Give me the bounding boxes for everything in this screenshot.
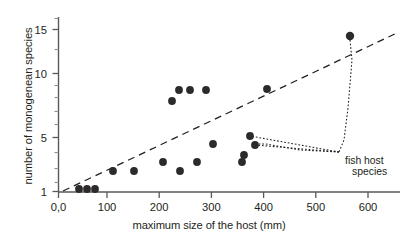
data-point — [109, 167, 117, 175]
fish-host-species-annotation: fish host species — [345, 155, 387, 177]
x-tick-label-200: 200 — [150, 201, 169, 213]
plot-canvas: 15 10 5 1 0,0 100 200 300 400 500 600 — [0, 0, 418, 244]
data-point — [130, 167, 138, 175]
data-point — [175, 86, 183, 94]
leader-line-cluster-c — [256, 144, 339, 152]
data-point — [193, 158, 201, 166]
leader-line-cluster-b — [255, 145, 339, 152]
x-tick-label-300: 300 — [202, 201, 221, 213]
y-axis-title: number of monogenean species — [22, 6, 34, 206]
annotation-line-2: species — [352, 166, 387, 177]
data-point — [251, 141, 259, 149]
x-axis-title: maximum size of the host (mm) — [0, 219, 418, 231]
data-point — [159, 158, 167, 166]
x-axis: 0,0 100 200 300 400 500 600 — [51, 192, 400, 213]
x-tick-label-400: 400 — [254, 201, 273, 213]
x-tick-label-100: 100 — [98, 201, 117, 213]
data-point — [176, 167, 184, 175]
data-point — [91, 185, 99, 193]
y-tick-label-1: 1 — [41, 186, 47, 198]
y-tick-label-5: 5 — [41, 132, 47, 144]
data-point — [168, 97, 176, 105]
x-tick-label-500: 500 — [306, 201, 325, 213]
data-point — [246, 132, 254, 140]
annotation-line-1: fish host — [345, 155, 384, 166]
scatter-plot-figure: 15 10 5 1 0,0 100 200 300 400 500 600 — [0, 0, 418, 244]
callout-leader-lines — [250, 40, 352, 152]
data-point — [83, 185, 91, 193]
y-axis: 15 10 5 1 — [35, 17, 59, 198]
y-tick-label-10: 10 — [35, 68, 47, 80]
data-point — [75, 185, 83, 193]
data-point — [209, 140, 217, 148]
data-points-group — [75, 32, 354, 193]
data-point — [202, 86, 210, 94]
x-tick-label-600: 600 — [359, 201, 378, 213]
data-point-outlier — [346, 32, 354, 40]
data-point — [186, 86, 194, 94]
data-point — [240, 151, 248, 159]
data-point — [238, 158, 246, 166]
y-tick-label-15: 15 — [35, 24, 47, 36]
data-point — [263, 85, 271, 93]
x-tick-label-0: 0,0 — [51, 201, 67, 213]
